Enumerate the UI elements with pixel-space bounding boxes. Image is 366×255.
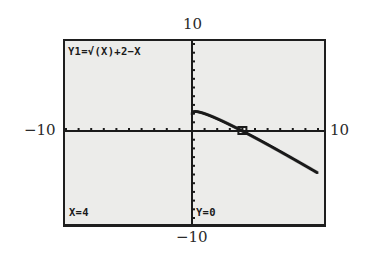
graph-plot (65, 41, 324, 224)
ymax-label: 10 (183, 15, 202, 33)
x-readout: X=4 (69, 206, 89, 218)
xmax-label: 10 (330, 121, 349, 139)
ymin-label: −10 (176, 228, 208, 246)
xmin-label: −10 (24, 121, 56, 139)
y-readout: Y=0 (196, 206, 216, 218)
equation-label: Y1=√(X)+2−X (68, 45, 141, 57)
calculator-graph-screen: Y1=√(X)+2−X X=4 Y=0 (63, 39, 326, 227)
